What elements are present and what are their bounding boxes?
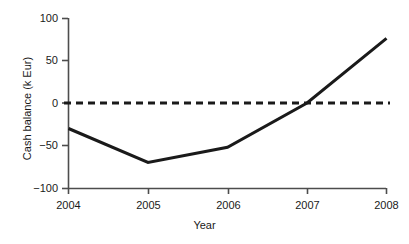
x-tick-label-2004: 2004 [43, 200, 94, 211]
x-tick-label-2006: 2006 [203, 200, 254, 211]
x-tick-label-2005: 2005 [123, 200, 174, 211]
x-axis-title: Year [0, 220, 409, 231]
cash-balance-line-chart: 100 50 0 −50 −100 2004 2005 2006 2007 20… [0, 0, 409, 244]
y-axis-title: Cash balance (k Eur) [22, 34, 33, 184]
y-tick-label-minus100: −100 [14, 183, 58, 194]
y-tick-label-100: 100 [14, 13, 58, 24]
x-tick-label-2007: 2007 [282, 200, 333, 211]
x-tick-label-2008: 2008 [361, 200, 409, 211]
cash-balance-series-line [69, 38, 387, 162]
